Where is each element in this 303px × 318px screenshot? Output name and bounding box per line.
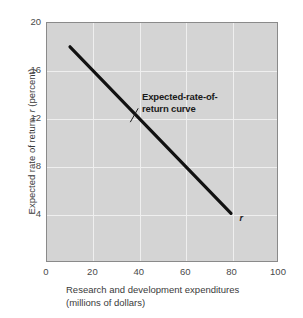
expected-rate-of-return-curve [47, 23, 277, 261]
plot-area: Expected-rate-of- return curve r [46, 22, 278, 262]
y-axis-label-prefix: Expected rate of return, [26, 112, 37, 214]
x-tick-label: 60 [165, 267, 205, 277]
x-tick-label: 100 [258, 267, 298, 277]
y-axis-label: Expected rate of return, r (percent) [26, 27, 37, 257]
curve-annotation-line2: return curve [142, 103, 218, 115]
x-tick-label: 80 [212, 267, 252, 277]
y-axis-label-suffix: (percent) [26, 69, 37, 110]
x-axis-label-line1: Research and development expenditures [66, 283, 239, 296]
x-tick-label: 0 [26, 267, 66, 277]
curve-line [70, 47, 231, 214]
x-tick-label: 40 [119, 267, 159, 277]
x-axis-label: Research and development expenditures (m… [66, 283, 239, 309]
y-tick-label: 20 [1, 17, 41, 27]
curve-end-label: r [240, 213, 244, 223]
chart-figure: Expected-rate-of- return curve r 4812162… [0, 0, 303, 318]
curve-annotation-line1: Expected-rate-of- [142, 91, 218, 103]
x-axis-label-line2: (millions of dollars) [66, 296, 239, 309]
x-tick-label: 20 [72, 267, 112, 277]
curve-annotation: Expected-rate-of- return curve [142, 91, 218, 114]
y-axis-label-symbol: r [26, 109, 37, 112]
